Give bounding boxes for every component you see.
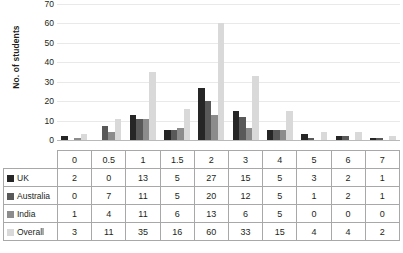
bar (342, 136, 349, 140)
table-cell: 0 (92, 169, 126, 187)
series-legend-label: Overall (4, 223, 58, 241)
table-header-row: 00.511.5234567 (4, 151, 400, 169)
y-axis-label: No. of students (11, 9, 21, 105)
table-cell: 60 (194, 223, 228, 241)
table-cell: 13 (126, 169, 160, 187)
bar-group (263, 4, 297, 140)
bar (389, 136, 396, 140)
table-cell: 3 (297, 169, 331, 187)
table-cell: 15 (228, 169, 262, 187)
table-cell: 2 (365, 223, 399, 241)
table-cell: 2 (58, 169, 92, 187)
table-cell: 35 (126, 223, 160, 241)
column-header-cell: 7 (365, 151, 399, 169)
bar (252, 76, 259, 140)
column-header-cell: 1 (126, 151, 160, 169)
column-header-cell: 3 (228, 151, 262, 169)
table-row: Australia0711520125121 (4, 187, 400, 205)
bar-group (194, 4, 228, 140)
table-corner-cell (4, 151, 58, 169)
table-cell: 5 (263, 169, 297, 187)
y-tick-label: 30 (24, 77, 54, 87)
table-cell: 0 (58, 187, 92, 205)
column-header-cell: 0.5 (92, 151, 126, 169)
column-header-cell: 1.5 (160, 151, 194, 169)
table-row: Overall3113516603315442 (4, 223, 400, 241)
table-cell: 0 (297, 205, 331, 223)
column-header-cell: 6 (331, 151, 365, 169)
y-tick-label: 70 (24, 0, 54, 9)
table-row: UK2013527155321 (4, 169, 400, 187)
bar-chart-with-data-table: No. of students 706050403020100 00.511.5… (0, 0, 403, 253)
bar-group (331, 4, 365, 140)
axis-baseline (57, 140, 400, 141)
legend-swatch-icon (7, 175, 14, 182)
bar (286, 111, 293, 140)
table-cell: 12 (228, 187, 262, 205)
legend-swatch-icon (7, 229, 14, 236)
table-cell: 5 (263, 205, 297, 223)
bar (218, 23, 225, 140)
table-cell: 0 (365, 205, 399, 223)
data-table-body: 00.511.5234567UK2013527155321Australia07… (4, 151, 400, 241)
table-cell: 6 (160, 205, 194, 223)
series-name: India (17, 209, 35, 219)
table-cell: 27 (194, 169, 228, 187)
y-tick-label: 10 (24, 116, 54, 126)
column-header-cell: 0 (58, 151, 92, 169)
legend-swatch-icon (7, 211, 14, 218)
table-cell: 2 (331, 169, 365, 187)
bar-group (126, 4, 160, 140)
series-legend-label: India (4, 205, 58, 223)
bar (321, 132, 328, 140)
y-tick-label: 60 (24, 18, 54, 28)
table-cell: 2 (331, 187, 365, 205)
series-legend-label: UK (4, 169, 58, 187)
y-tick-label: 0 (24, 135, 54, 145)
y-tick-label: 50 (24, 38, 54, 48)
table-cell: 5 (160, 187, 194, 205)
bar-group (228, 4, 262, 140)
table-cell: 5 (263, 187, 297, 205)
table-cell: 1 (365, 169, 399, 187)
data-table: 00.511.5234567UK2013527155321Australia07… (3, 150, 400, 241)
series-name: Australia (17, 191, 50, 201)
column-header-cell: 5 (297, 151, 331, 169)
bar (308, 138, 315, 140)
bar (184, 109, 191, 140)
bar-group (57, 4, 91, 140)
table-cell: 15 (263, 223, 297, 241)
table-cell: 5 (160, 169, 194, 187)
bar (61, 136, 68, 140)
plot-area: No. of students 706050403020100 (0, 4, 403, 150)
bar (149, 72, 156, 140)
y-tick-label: 40 (24, 57, 54, 67)
table-cell: 13 (194, 205, 228, 223)
y-tick-label: 20 (24, 96, 54, 106)
series-name: UK (17, 173, 29, 183)
bar (81, 134, 88, 140)
table-cell: 1 (365, 187, 399, 205)
bar (355, 132, 362, 140)
series-legend-label: Australia (4, 187, 58, 205)
y-axis-tick-labels: 706050403020100 (24, 4, 54, 140)
table-cell: 11 (92, 223, 126, 241)
bar-group (160, 4, 194, 140)
legend-swatch-icon (7, 193, 14, 200)
table-cell: 6 (228, 205, 262, 223)
series-name: Overall (17, 227, 44, 237)
bar-group (91, 4, 125, 140)
table-cell: 1 (58, 205, 92, 223)
table-cell: 0 (331, 205, 365, 223)
table-cell: 4 (92, 205, 126, 223)
bar (376, 138, 383, 140)
bar-groups (57, 4, 400, 140)
table-cell: 4 (297, 223, 331, 241)
table-cell: 11 (126, 205, 160, 223)
table-cell: 3 (58, 223, 92, 241)
table-cell: 11 (126, 187, 160, 205)
table-cell: 4 (331, 223, 365, 241)
table-cell: 33 (228, 223, 262, 241)
table-cell: 7 (92, 187, 126, 205)
table-cell: 16 (160, 223, 194, 241)
